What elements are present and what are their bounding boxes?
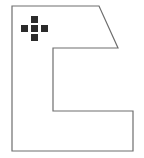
c-shaped-polygon[interactable] [12, 6, 133, 151]
shape-canvas[interactable] [0, 0, 144, 158]
polygon-shape-svg [0, 0, 144, 158]
